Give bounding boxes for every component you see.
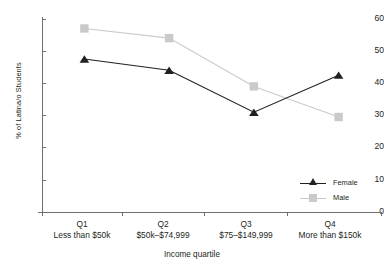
square-marker-icon [309, 194, 317, 202]
data-point-square [250, 82, 258, 90]
data-point-square [334, 113, 342, 121]
legend-label-male: Male [333, 193, 349, 202]
legend-label-female: Female [333, 178, 358, 187]
data-point-square [80, 24, 88, 32]
data-point-triangle [334, 71, 344, 78]
triangle-marker-icon [309, 178, 317, 185]
series-line-female [84, 59, 338, 112]
data-point-square [165, 34, 173, 42]
chart-container: % of Latina/o Students 60 50 40 30 20 10… [0, 0, 384, 273]
data-point-triangle [249, 108, 259, 115]
plot-area [0, 0, 384, 273]
series-line-male [84, 28, 338, 117]
